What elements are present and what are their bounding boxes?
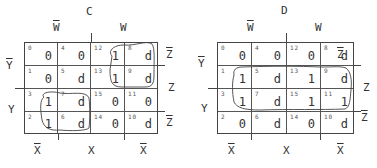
grouping-loops xyxy=(0,0,377,168)
